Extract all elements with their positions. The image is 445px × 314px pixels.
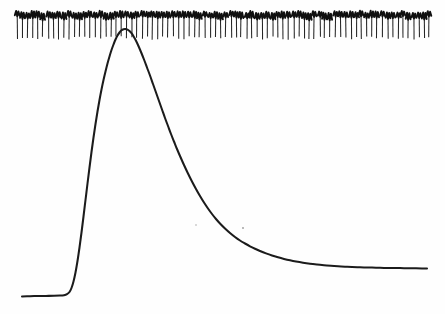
figure-canvas bbox=[0, 0, 445, 314]
comb-tick-hook bbox=[426, 11, 431, 16]
comb-tick-hook bbox=[390, 12, 395, 18]
scan-speck bbox=[242, 227, 244, 229]
comb-tick-hook bbox=[134, 12, 139, 18]
comb-tick-hook bbox=[67, 11, 72, 17]
comb-tick-hook bbox=[343, 12, 348, 18]
comb-tick-hook bbox=[20, 12, 25, 19]
comb-tick-hook bbox=[359, 11, 364, 17]
comb-tick-hook bbox=[77, 13, 82, 20]
comb-tick-hook bbox=[208, 13, 213, 18]
comb-tick-hook bbox=[322, 13, 327, 20]
comb-tick-hook bbox=[51, 13, 56, 19]
comb-tick-hook bbox=[312, 11, 317, 17]
comb-tick-hook bbox=[40, 13, 45, 20]
comb-tick-hook bbox=[165, 12, 170, 18]
comb-tick-hook bbox=[280, 11, 285, 18]
comb-tick-hook bbox=[292, 12, 297, 18]
comb-tick-hook bbox=[15, 11, 20, 17]
comb-tick-hook bbox=[104, 13, 109, 20]
comb-tick-hook bbox=[160, 12, 165, 18]
comb-tick-hook bbox=[265, 12, 270, 19]
comb-tick-hook bbox=[25, 13, 30, 19]
comb-tick-hook bbox=[187, 12, 192, 18]
comb-tick-hook bbox=[182, 11, 187, 17]
comb-tick-hook bbox=[349, 11, 354, 18]
comb-tick-hook bbox=[82, 12, 87, 18]
comb-tick-hook bbox=[140, 11, 145, 17]
comb-tick-hook bbox=[155, 12, 160, 19]
comb-tick-hook bbox=[249, 11, 254, 18]
comb-tick-hook bbox=[307, 13, 312, 20]
comb-tick-hook bbox=[327, 13, 332, 20]
comb-tick-hook bbox=[229, 11, 234, 16]
comb-tick-hook bbox=[62, 12, 67, 19]
comb-tick-hook bbox=[412, 13, 417, 19]
comb-tick-hook bbox=[35, 11, 40, 18]
comb-tick-hook bbox=[93, 12, 98, 18]
scan-speck bbox=[195, 224, 196, 225]
comb-tick-hook bbox=[260, 13, 265, 19]
comb-tick-hook bbox=[400, 11, 405, 16]
comb-tick-hook bbox=[114, 12, 119, 17]
comb-tick-hook bbox=[386, 12, 391, 18]
comb-tick-hook bbox=[213, 12, 218, 19]
comb-tick-hook bbox=[223, 12, 228, 17]
comb-tick-hook bbox=[171, 11, 176, 17]
comb-tick-hook bbox=[364, 13, 369, 19]
comb-tick-hook bbox=[87, 11, 92, 17]
comb-tick-hook bbox=[197, 13, 202, 20]
comb-tick-hook bbox=[98, 11, 103, 17]
comb-tick-hook bbox=[176, 11, 181, 17]
comb-tick-hook bbox=[380, 11, 385, 16]
comb-tick-hook bbox=[406, 13, 411, 20]
comb-tick-hook bbox=[203, 12, 208, 17]
comb-tick-hook bbox=[218, 13, 223, 20]
comb-tick-hook bbox=[119, 11, 124, 18]
comb-tick-hook bbox=[297, 11, 302, 17]
comb-tick-hook bbox=[286, 12, 291, 18]
comb-tick-hook bbox=[374, 11, 379, 17]
comb-tick-hook bbox=[275, 12, 280, 17]
figure-plot bbox=[0, 0, 445, 314]
comb-tick-hook bbox=[417, 13, 422, 18]
comb-tick-hook bbox=[255, 13, 260, 20]
comb-tick-hook bbox=[124, 11, 129, 16]
comb-tick-hook bbox=[338, 11, 343, 17]
comb-tick-hook bbox=[56, 12, 61, 18]
comb-tick-hook bbox=[239, 12, 244, 19]
comb-tick-hook bbox=[150, 11, 155, 17]
